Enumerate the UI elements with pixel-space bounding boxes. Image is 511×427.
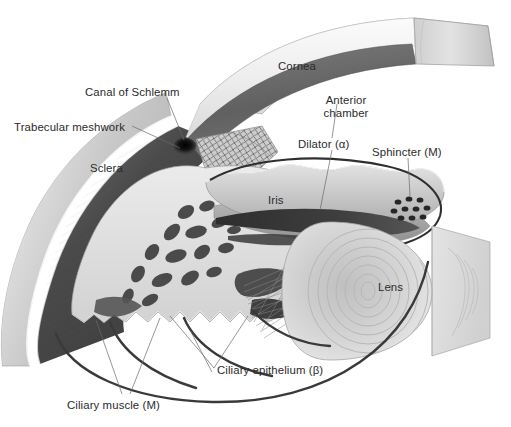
eye-anatomy-illustration [0,0,511,427]
label-sphincter: Sphincter (M) [372,146,442,159]
canal-of-schlemm-structure [174,138,196,154]
label-trabecular-meshwork: Trabecular meshwork [14,121,125,134]
label-canal-of-schlemm: Canal of Schlemm [85,86,180,99]
label-iris: Iris [268,194,284,207]
label-ciliary-epithelium: Ciliary epithelium (β) [217,364,323,377]
label-ciliary-muscle: Ciliary muscle (M) [67,399,160,412]
diagram-canvas: Canal of Schlemm Trabecular meshwork Scl… [0,0,511,427]
label-sclera: Sclera [90,162,123,175]
label-dilator: Dilator (α) [298,138,349,151]
label-lens: Lens [378,281,403,294]
label-cornea: Cornea [278,60,316,73]
label-anterior-chamber: Anterior chamber [310,94,382,119]
